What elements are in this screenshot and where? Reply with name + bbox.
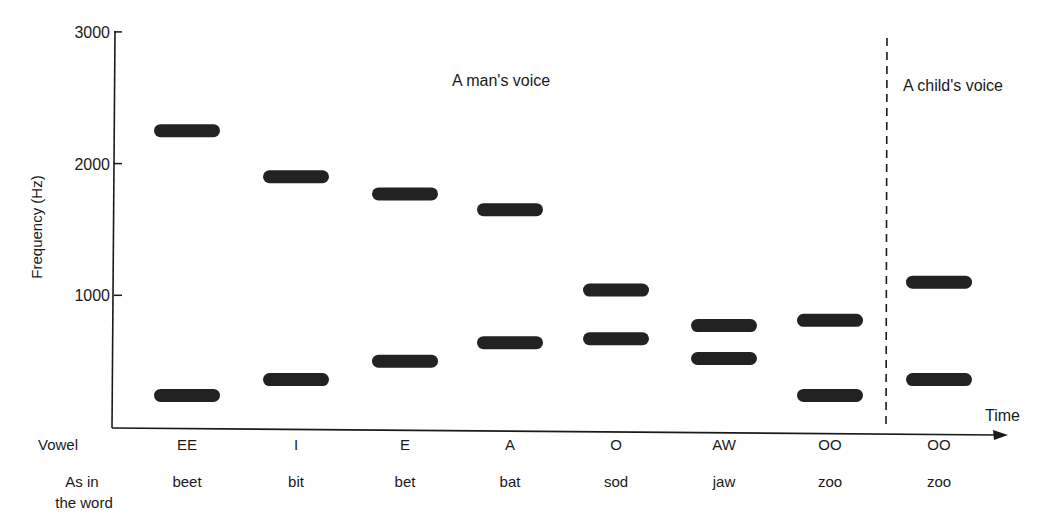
vowel-label: A xyxy=(505,436,515,453)
lower-formant-bar-a-man xyxy=(477,336,543,349)
upper-formant-bar-aw-man xyxy=(691,319,757,332)
x-axis-label: Time xyxy=(985,407,1020,424)
lower-formant-bar-oo-man xyxy=(797,389,863,402)
word-label: zoo xyxy=(818,473,842,490)
vowel-label: O xyxy=(610,436,622,453)
upper-formant-bar-i-man xyxy=(263,170,329,183)
formant-bars xyxy=(154,124,972,402)
row-label-vowel: Vowel xyxy=(38,436,78,453)
x-axis xyxy=(112,428,998,435)
man-child-divider xyxy=(886,38,887,430)
y-tick-label: 3000 xyxy=(74,24,110,41)
y-axis xyxy=(112,31,115,428)
word-label: bat xyxy=(500,473,522,490)
lower-formant-bar-i-man xyxy=(263,373,329,386)
upper-formant-bar-ee-man xyxy=(154,124,220,137)
y-tick-label: 1000 xyxy=(74,287,110,304)
category-labels: EEbeetIbitEbetAbatOsodAWjawOOzooOOzoo xyxy=(172,436,951,490)
lower-formant-bar-oo-child xyxy=(906,373,972,386)
x-axis-arrow-icon xyxy=(993,430,1008,440)
formant-chart: 100020003000 Frequency (Hz) Time A man's… xyxy=(0,0,1058,531)
lower-formant-bar-aw-man xyxy=(691,352,757,365)
lower-formant-bar-e-man xyxy=(372,355,438,368)
word-label: jaw xyxy=(712,473,736,490)
word-label: zoo xyxy=(927,473,951,490)
lower-formant-bar-ee-man xyxy=(154,389,220,402)
y-tick-label: 2000 xyxy=(74,156,110,173)
vowel-label: AW xyxy=(712,436,736,453)
word-label: bit xyxy=(288,473,305,490)
word-label: beet xyxy=(172,473,202,490)
upper-formant-bar-a-man xyxy=(477,203,543,216)
row-label-the-word: the word xyxy=(55,494,113,511)
upper-formant-bar-e-man xyxy=(372,187,438,200)
upper-formant-bar-oo-child xyxy=(906,276,972,289)
upper-formant-bar-o-man xyxy=(583,284,649,297)
vowel-label: EE xyxy=(177,436,197,453)
word-label: bet xyxy=(395,473,417,490)
y-axis-label: Frequency (Hz) xyxy=(28,175,45,278)
row-label-as-in: As in xyxy=(65,473,98,490)
lower-formant-bar-o-man xyxy=(583,332,649,345)
word-label: sod xyxy=(604,473,628,490)
upper-formant-bar-oo-man xyxy=(797,314,863,327)
vowel-label: E xyxy=(400,436,410,453)
annotation-man-voice: A man's voice xyxy=(452,72,550,89)
vowel-label: I xyxy=(294,436,298,453)
vowel-label: OO xyxy=(927,436,950,453)
vowel-label: OO xyxy=(818,436,841,453)
annotation-child-voice: A child's voice xyxy=(903,77,1003,94)
